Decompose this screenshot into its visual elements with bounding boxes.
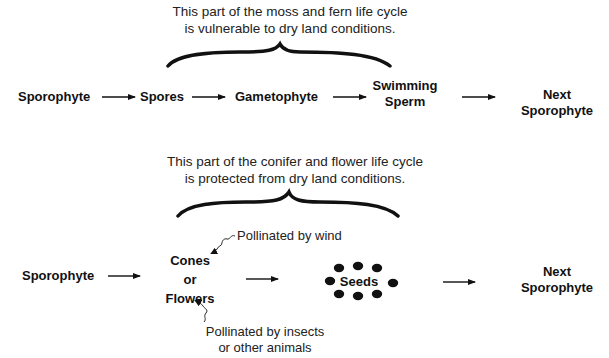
top-caption: This part of the moss and fern life cycl… xyxy=(140,3,440,37)
bottom-node-sporophyte: Sporophyte xyxy=(22,268,94,284)
top-node-spores: Spores xyxy=(140,89,184,105)
bottom-node-seeds: Seeds xyxy=(339,274,379,290)
bottom-node-next-sporophyte: Next Sporophyte xyxy=(512,264,602,296)
top-node-next-sporophyte: Next Sporophyte xyxy=(512,87,602,119)
bottom-node-cones-or-flowers: Cones or Flowers xyxy=(160,251,220,308)
top-node-sporophyte: Sporophyte xyxy=(18,89,90,105)
animal-pollination-label: Pollinated by insects or other animals xyxy=(190,324,340,356)
top-node-swimming-sperm: Swimming Sperm xyxy=(370,78,440,110)
top-node-gametophyte: Gametophyte xyxy=(235,89,318,105)
bottom-caption: This part of the conifer and flower life… xyxy=(145,153,445,187)
bottom-brace-icon xyxy=(178,192,398,216)
top-brace-icon xyxy=(168,44,390,66)
wind-pollination-label: Pollinated by wind xyxy=(237,228,342,244)
